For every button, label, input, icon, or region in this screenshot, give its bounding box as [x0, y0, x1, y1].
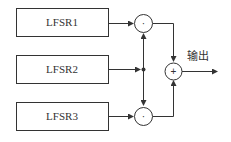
lfsr3-block: LFSR3 — [17, 103, 109, 131]
lfsr2-label: LFSR2 — [46, 63, 78, 75]
lfsr1-block: LFSR1 — [17, 9, 109, 37]
lfsr2-block: LFSR2 — [17, 56, 109, 84]
xor-symbol: + — [171, 66, 177, 77]
and-gate-top: · — [135, 15, 153, 33]
junction-dot — [142, 68, 146, 72]
connections — [109, 24, 218, 117]
lfsr-combiner-diagram: LFSR1 LFSR2 LFSR3 · · + — [0, 0, 231, 142]
lfsr1-label: LFSR1 — [46, 16, 78, 28]
and-top-symbol: · — [142, 18, 145, 29]
and-bottom-symbol: · — [142, 111, 145, 122]
xor-gate: + — [165, 63, 182, 80]
lfsr3-label: LFSR3 — [46, 110, 78, 122]
output-label: 输出 — [187, 49, 209, 62]
and-gate-bottom: · — [135, 108, 153, 126]
